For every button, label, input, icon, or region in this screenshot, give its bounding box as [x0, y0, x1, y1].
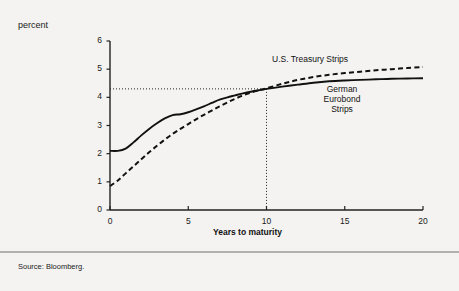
chart-canvas — [0, 0, 459, 291]
series-paths — [110, 67, 423, 186]
series-label-us-treasury-strips: U.S. Treasury Strips — [272, 55, 348, 65]
reference-lines — [110, 89, 267, 210]
series-label-line-3: Strips — [314, 105, 370, 115]
y-axis-tick-label: 1 — [90, 176, 102, 186]
x-axis-tick-label: 10 — [258, 216, 276, 226]
figure-panel: percent 0123456 05101520 Years to maturi… — [0, 0, 459, 291]
x-axis-tick-label: 20 — [414, 216, 432, 226]
x-axis-tick-label: 15 — [336, 216, 354, 226]
source-note: Source: Bloomberg. — [18, 263, 84, 272]
y-axis-tick-label: 6 — [90, 35, 102, 45]
series-label-german-eurobond-strips: German Eurobond Strips — [314, 85, 370, 114]
x-axis-tick-label: 0 — [101, 216, 119, 226]
y-axis-tick-label: 5 — [90, 63, 102, 73]
y-axis-tick-label: 2 — [90, 148, 102, 158]
x-axis-tick-label: 5 — [179, 216, 197, 226]
y-axis-tick-label: 3 — [90, 120, 102, 130]
y-axis-tick-label: 0 — [90, 204, 102, 214]
x-axis-title: Years to maturity — [213, 228, 282, 238]
series-line-u-s-treasury-strips — [110, 67, 423, 186]
y-axis-tick-label: 4 — [90, 91, 102, 101]
